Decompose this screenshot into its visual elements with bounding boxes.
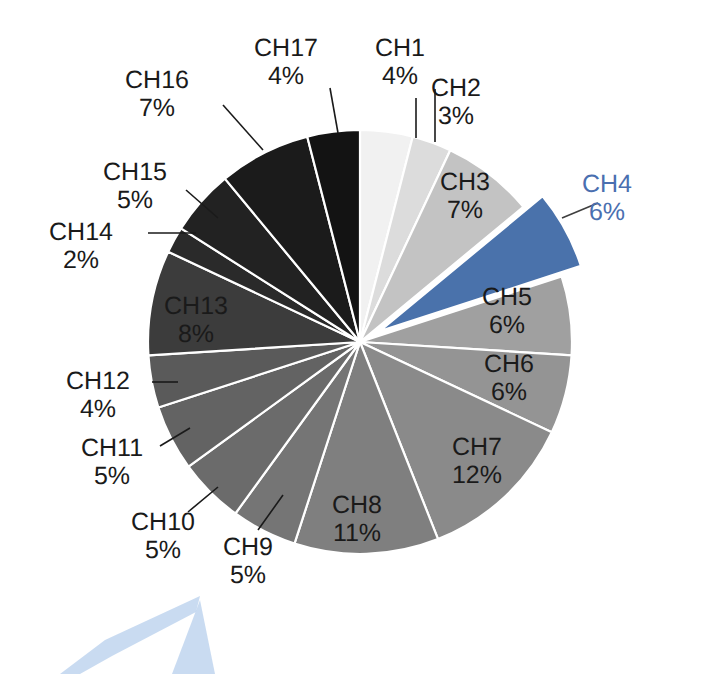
- slice-label-name-ch9: CH9: [223, 533, 273, 561]
- slice-label-ch9: CH95%: [223, 533, 273, 589]
- slice-label-ch4: CH46%: [582, 170, 632, 226]
- slice-label-ch15: CH155%: [103, 158, 167, 214]
- slice-label-name-ch5: CH5: [482, 283, 532, 311]
- slice-label-name-ch10: CH10: [131, 508, 195, 536]
- slice-value-ch15: 5%: [117, 186, 153, 214]
- slice-label-ch2: CH23%: [431, 74, 481, 130]
- slice-value-ch12: 4%: [80, 395, 116, 423]
- slice-label-name-ch14: CH14: [49, 218, 113, 246]
- slice-label-name-ch15: CH15: [103, 158, 167, 186]
- slice-label-ch10: CH105%: [131, 508, 195, 564]
- slice-value-ch8: 11%: [333, 519, 381, 547]
- slice-label-name-ch8: CH8: [332, 491, 382, 519]
- slice-value-ch2: 3%: [438, 102, 474, 130]
- slice-label-name-ch17: CH17: [254, 34, 318, 62]
- slice-label-ch1: CH14%: [375, 34, 425, 90]
- slice-label-name-ch7: CH7: [452, 433, 502, 461]
- slice-label-ch16: CH167%: [125, 66, 189, 122]
- leader-line-ch17: [330, 88, 338, 133]
- slice-value-ch13: 8%: [178, 320, 214, 348]
- slice-label-ch11: CH115%: [81, 434, 143, 490]
- slice-value-ch3: 7%: [447, 196, 483, 224]
- slice-value-ch9: 5%: [230, 561, 266, 589]
- slice-label-ch7: CH712%: [452, 433, 502, 489]
- watermark-layer: [60, 596, 215, 674]
- slice-label-ch8: CH811%: [332, 491, 382, 547]
- slice-label-name-ch11: CH11: [81, 434, 143, 462]
- slice-label-name-ch4: CH4: [582, 170, 632, 198]
- slice-label-name-ch13: CH13: [164, 292, 228, 320]
- pie-chart: CH14%CH23%CH37%CH46%CH56%CH66%CH712%CH81…: [0, 0, 707, 674]
- slice-label-name-ch2: CH2: [431, 74, 481, 102]
- slice-value-ch16: 7%: [139, 94, 175, 122]
- slice-label-ch5: CH56%: [482, 283, 532, 339]
- slice-value-ch1: 4%: [382, 62, 418, 90]
- slice-label-ch3: CH37%: [440, 168, 490, 224]
- slice-value-ch10: 5%: [145, 536, 181, 564]
- slice-label-name-ch3: CH3: [440, 168, 490, 196]
- slice-label-ch14: CH142%: [49, 218, 113, 274]
- slice-label-ch12: CH124%: [66, 367, 130, 423]
- slice-value-ch17: 4%: [268, 62, 304, 90]
- slice-value-ch6: 6%: [491, 378, 527, 406]
- slice-label-name-ch12: CH12: [66, 367, 130, 395]
- slice-label-ch6: CH66%: [484, 350, 534, 406]
- pie-chart-canvas: CH14%CH23%CH37%CH46%CH56%CH66%CH712%CH81…: [0, 0, 707, 674]
- slice-label-name-ch6: CH6: [484, 350, 534, 378]
- slice-label-ch17: CH174%: [254, 34, 318, 90]
- slice-value-ch5: 6%: [489, 311, 525, 339]
- slice-label-name-ch1: CH1: [375, 34, 425, 62]
- slice-value-ch14: 2%: [63, 246, 99, 274]
- leader-line-ch16: [223, 105, 263, 150]
- slice-value-ch11: 5%: [94, 462, 130, 490]
- slice-value-ch7: 12%: [452, 461, 502, 489]
- slice-label-name-ch16: CH16: [125, 66, 189, 94]
- slice-value-ch4: 6%: [589, 198, 625, 226]
